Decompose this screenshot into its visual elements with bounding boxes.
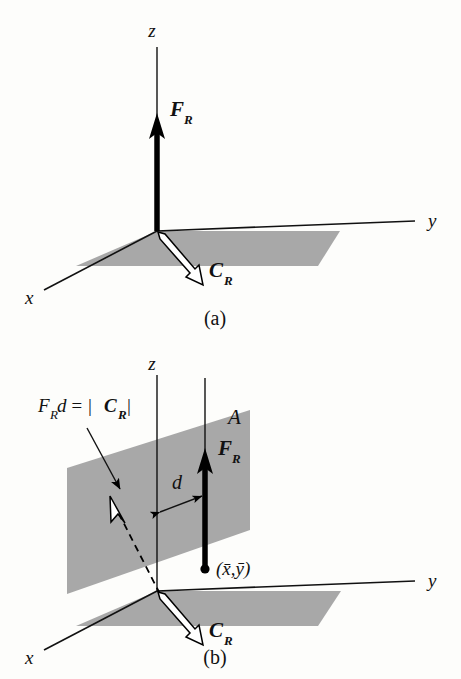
moment-eq-F: F	[37, 395, 50, 416]
horizontal-plane-a	[76, 231, 340, 266]
moment-eq-tail: |	[126, 395, 131, 416]
panel-b: z y x A F R d (x̄,ȳ) C R F R d	[24, 353, 437, 669]
force-label-a: F R	[169, 97, 193, 127]
force-label-a-main: F	[169, 97, 184, 121]
caption-a: (a)	[204, 307, 226, 330]
distance-label-b: d	[172, 471, 183, 493]
figure-root: z y x F R C R (a)	[0, 0, 461, 679]
couple-label-a-main: C	[209, 258, 224, 282]
plane-label-b: A	[226, 405, 241, 429]
application-point-b	[200, 564, 209, 573]
moment-equation-label-b: F R d = | C R |	[37, 395, 131, 422]
couple-label-b-main: C	[209, 618, 224, 642]
x-axis-label-b: x	[24, 647, 34, 668]
y-axis-b	[157, 581, 415, 591]
z-axis-label-b: z	[147, 353, 156, 374]
y-axis-a	[157, 221, 415, 231]
force-label-b-main: F	[217, 436, 232, 460]
moment-eq-mid: d = |	[57, 395, 92, 416]
force-label-a-sub: R	[183, 112, 193, 127]
caption-b: (b)	[203, 646, 226, 669]
engineering-figure: z y x F R C R (a)	[0, 0, 461, 679]
y-axis-label-b: y	[426, 570, 437, 591]
force-label-b-sub: R	[231, 451, 241, 466]
moment-eq-C: C	[104, 395, 117, 416]
couple-label-a-sub: R	[223, 273, 233, 288]
centroid-label-b: (x̄,ȳ)	[216, 558, 250, 580]
z-axis-label-a: z	[147, 20, 156, 41]
x-axis-label-a: x	[24, 287, 34, 308]
panel-a: z y x F R C R (a)	[24, 20, 437, 330]
y-axis-label-a: y	[426, 210, 437, 231]
